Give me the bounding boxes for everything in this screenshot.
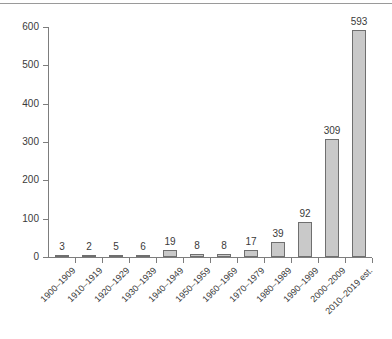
bar xyxy=(352,30,366,257)
bar xyxy=(217,254,231,257)
x-axis-tick-mark xyxy=(75,258,76,263)
y-axis-tick-label: 0 xyxy=(0,252,39,262)
y-axis-tick-mark xyxy=(43,257,48,258)
x-axis-tick-mark xyxy=(156,258,157,263)
y-axis-tick-label: 100 xyxy=(0,214,39,224)
bar xyxy=(136,255,150,257)
y-axis-tick-mark xyxy=(43,104,48,105)
x-axis-tick-mark xyxy=(237,258,238,263)
y-axis-tick-mark xyxy=(43,142,48,143)
bar xyxy=(325,139,339,257)
y-axis-tick-label: 200 xyxy=(0,175,39,185)
x-axis-tick-mark xyxy=(183,258,184,263)
bar xyxy=(298,222,312,257)
top-divider-rule xyxy=(0,3,392,4)
y-axis-tick-label: 400 xyxy=(0,99,39,109)
y-axis-tick-mark xyxy=(43,65,48,66)
bar xyxy=(244,250,258,257)
bar xyxy=(190,254,204,257)
x-axis-tick-mark xyxy=(264,258,265,263)
x-axis-tick-mark xyxy=(372,258,373,263)
y-axis-tick-mark xyxy=(43,27,48,28)
x-axis-tick-mark xyxy=(129,258,130,263)
x-axis-tick-mark xyxy=(102,258,103,263)
bar-value-label: 309 xyxy=(312,126,352,136)
bar-value-label: 593 xyxy=(339,17,379,27)
x-axis-tick-mark xyxy=(291,258,292,263)
bar-value-label: 39 xyxy=(258,229,298,239)
bar xyxy=(271,242,285,257)
x-axis-tick-mark xyxy=(318,258,319,263)
bar-chart-figure: 0100200300400500600 32561988173992309593… xyxy=(0,0,392,339)
y-axis-tick-mark xyxy=(43,180,48,181)
y-axis-tick-label: 600 xyxy=(0,22,39,32)
x-axis-tick-mark xyxy=(345,258,346,263)
bar xyxy=(163,250,177,257)
bar xyxy=(82,255,96,257)
y-axis-tick-label: 300 xyxy=(0,137,39,147)
y-axis-tick-label: 500 xyxy=(0,60,39,70)
y-axis-tick-mark xyxy=(43,219,48,220)
bar-value-label: 92 xyxy=(285,209,325,219)
y-axis-line xyxy=(48,27,49,258)
bar xyxy=(55,255,69,257)
bar xyxy=(109,255,123,257)
x-axis-tick-mark xyxy=(210,258,211,263)
